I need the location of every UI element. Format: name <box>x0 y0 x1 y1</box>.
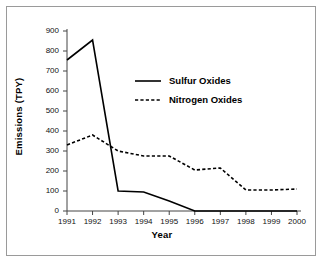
legend-label-sulfur-oxides: Sulfur Oxides <box>169 75 231 86</box>
legend-sample-lines <box>135 81 161 100</box>
plot-canvas <box>7 7 317 257</box>
chart-frame: Emissions (TPY) Year 0100200300400500600… <box>6 6 316 256</box>
axis-tick-marks <box>63 31 297 215</box>
series-line-sulfur-oxides <box>67 40 297 211</box>
emissions-line-chart: Emissions (TPY) Year 0100200300400500600… <box>7 7 317 257</box>
data-series-layer <box>67 40 297 211</box>
series-line-nitrogen-oxides <box>67 135 297 190</box>
legend-label-nitrogen-oxides: Nitrogen Oxides <box>169 94 242 105</box>
axis-lines <box>67 29 301 211</box>
